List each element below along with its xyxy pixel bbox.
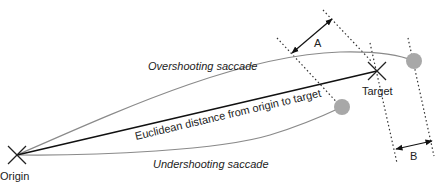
label-overshoot: Overshooting saccade bbox=[148, 60, 257, 72]
dotted-line-target bbox=[370, 43, 397, 163]
label-euclidean: Euclidean distance from origin to target bbox=[134, 87, 322, 142]
dotted-reference-lines bbox=[277, 10, 434, 163]
label-undershoot: Undershooting saccade bbox=[153, 158, 269, 170]
label-origin: Origin bbox=[0, 170, 29, 182]
distance-b-arrow bbox=[396, 141, 432, 149]
distance-a-arrow bbox=[292, 19, 332, 53]
label-a: A bbox=[314, 37, 322, 49]
target-marker bbox=[368, 62, 386, 80]
label-target: Target bbox=[362, 85, 393, 97]
euclidean-line bbox=[17, 71, 377, 155]
undershoot-endpoint bbox=[334, 99, 350, 115]
dotted-line-target-perp bbox=[323, 10, 372, 62]
label-b: B bbox=[410, 150, 417, 162]
overshoot-endpoint bbox=[406, 53, 422, 69]
saccade-diagram: A B Origin Target Overshooting saccade U… bbox=[0, 0, 436, 182]
